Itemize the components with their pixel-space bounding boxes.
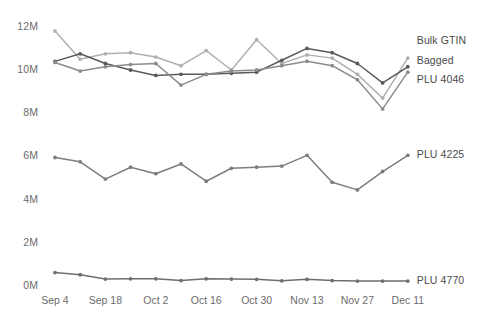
- series-line: [55, 155, 408, 190]
- data-point: [179, 83, 183, 87]
- data-point: [356, 72, 360, 76]
- legend-label-bagged: Bagged: [417, 54, 454, 66]
- data-point: [179, 162, 183, 166]
- data-point: [305, 277, 309, 281]
- data-point: [381, 279, 385, 283]
- data-point: [230, 166, 234, 170]
- data-point: [330, 51, 334, 55]
- legend-label-plu-4770: PLU 4770: [417, 274, 465, 286]
- data-point: [255, 277, 259, 281]
- series-layer: [53, 29, 410, 283]
- data-point: [230, 69, 234, 73]
- data-point: [330, 180, 334, 184]
- data-point: [255, 38, 259, 42]
- series-plu-4046: [53, 59, 410, 110]
- y-tick-label: 12M: [4, 20, 38, 32]
- data-point: [204, 179, 208, 183]
- data-point: [179, 64, 183, 68]
- legend-label-bulk-gtin: Bulk GTIN: [417, 34, 466, 46]
- data-point: [280, 164, 284, 168]
- data-point: [305, 153, 309, 157]
- data-point: [53, 61, 57, 65]
- data-point: [356, 188, 360, 192]
- data-point: [154, 172, 158, 176]
- y-tick-label: 8M: [4, 106, 38, 118]
- series-plu-4225: [53, 153, 410, 191]
- y-tick-label: 10M: [4, 63, 38, 75]
- data-point: [356, 78, 360, 82]
- data-point: [230, 277, 234, 281]
- y-tick-label: 4M: [4, 193, 38, 205]
- data-point: [330, 56, 334, 60]
- data-point: [104, 277, 108, 281]
- data-point: [78, 57, 82, 61]
- y-tick-label: 2M: [4, 236, 38, 248]
- data-point: [406, 279, 410, 283]
- data-point: [78, 69, 82, 73]
- data-point: [330, 279, 334, 283]
- data-point: [53, 156, 57, 160]
- data-point: [104, 62, 108, 66]
- data-point: [255, 165, 259, 169]
- data-point: [78, 273, 82, 277]
- data-point: [129, 63, 133, 67]
- data-point: [78, 52, 82, 56]
- series-plu-4770: [53, 271, 410, 283]
- data-point: [280, 279, 284, 283]
- y-tick-label: 0M: [4, 279, 38, 291]
- data-point: [255, 68, 259, 72]
- data-point: [129, 68, 133, 72]
- data-point: [53, 271, 57, 275]
- data-point: [356, 62, 360, 66]
- data-point: [280, 58, 284, 62]
- data-point: [204, 49, 208, 53]
- data-point: [78, 160, 82, 164]
- data-point: [204, 277, 208, 281]
- data-point: [381, 81, 385, 85]
- data-point: [179, 279, 183, 283]
- data-point: [305, 59, 309, 63]
- data-point: [381, 96, 385, 100]
- data-point: [381, 107, 385, 111]
- data-point: [129, 51, 133, 55]
- data-point: [53, 29, 57, 33]
- data-point: [204, 72, 208, 76]
- data-point: [154, 62, 158, 66]
- data-point: [154, 74, 158, 78]
- data-point: [406, 56, 410, 60]
- data-point: [129, 277, 133, 281]
- legend-label-plu-4225: PLU 4225: [417, 148, 465, 160]
- data-point: [104, 65, 108, 69]
- data-point: [104, 52, 108, 56]
- data-point: [154, 55, 158, 59]
- data-point: [104, 177, 108, 181]
- x-tick-label: Dec 11: [378, 294, 438, 306]
- data-point: [406, 65, 410, 69]
- data-point: [381, 170, 385, 174]
- data-point: [356, 279, 360, 283]
- data-point: [179, 72, 183, 76]
- data-point: [129, 165, 133, 169]
- data-point: [154, 277, 158, 281]
- data-point: [305, 47, 309, 51]
- data-point: [330, 64, 334, 68]
- line-chart: 0M2M4M6M8M10M12M Sep 4Sep 18Oct 2Oct 16O…: [0, 0, 494, 329]
- data-point: [280, 64, 284, 68]
- data-point: [305, 53, 309, 57]
- data-point: [406, 70, 410, 74]
- legend-label-plu-4046: PLU 4046: [417, 73, 465, 85]
- data-point: [406, 153, 410, 157]
- y-tick-label: 6M: [4, 149, 38, 161]
